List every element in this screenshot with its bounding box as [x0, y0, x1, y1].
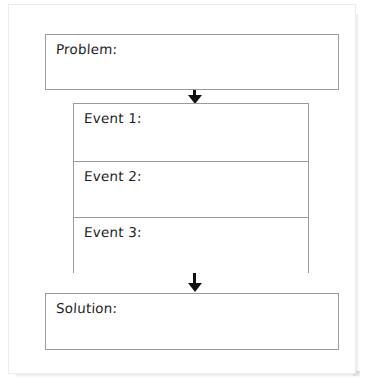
arrow-head	[188, 283, 202, 292]
problem-label: Problem:	[56, 41, 118, 57]
arrow-down-icon-events-to-solution	[188, 273, 202, 294]
events-box: Event 1: Event 2: Event 3:	[73, 103, 309, 273]
solution-label: Solution:	[56, 300, 118, 316]
event-row[interactable]: Event 1:	[74, 104, 308, 161]
event-row[interactable]: Event 3:	[74, 217, 308, 274]
problem-box[interactable]: Problem:	[45, 34, 339, 90]
arrow-down-icon-problem-to-events	[188, 90, 202, 104]
event-row[interactable]: Event 2:	[74, 161, 308, 218]
worksheet-screen: Problem: Event 1: Event 2: Event 3:	[0, 0, 367, 387]
event-3-label: Event 3:	[84, 224, 143, 240]
event-2-label: Event 2:	[84, 168, 143, 184]
solution-box[interactable]: Solution:	[45, 293, 339, 350]
worksheet-page: Problem: Event 1: Event 2: Event 3:	[8, 4, 356, 374]
event-1-label: Event 1:	[84, 110, 143, 126]
